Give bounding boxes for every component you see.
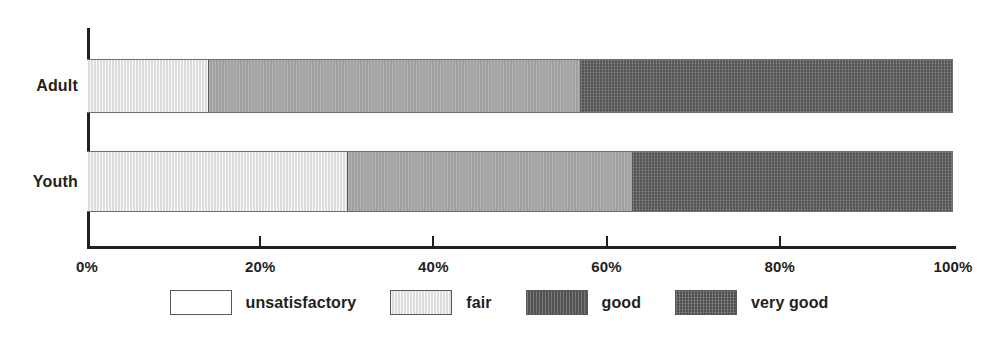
legend-item-very-good[interactable]: very good xyxy=(675,290,828,315)
legend-swatch-very-good xyxy=(675,290,737,315)
legend-label-fair: fair xyxy=(466,294,491,312)
bar-youth xyxy=(87,151,953,212)
legend-label-unsatisfactory: unsatisfactory xyxy=(246,294,357,312)
category-label-adult: Adult xyxy=(36,77,78,95)
bar-segment-good xyxy=(208,60,580,112)
x-axis-tick-label: 80% xyxy=(764,258,795,275)
x-axis-tick-label: 40% xyxy=(418,258,449,275)
bar-segment-very-good xyxy=(580,60,952,112)
legend-swatch-fair xyxy=(390,290,452,315)
legend-item-good[interactable]: good xyxy=(526,290,642,315)
x-axis-tick xyxy=(259,236,261,247)
stacked-bar-chart: 0%20%40%60%80%100% AdultYouth unsatisfac… xyxy=(0,0,998,337)
x-axis-tick-label: 60% xyxy=(591,258,622,275)
x-axis-line xyxy=(87,246,956,249)
legend-label-good: good xyxy=(602,294,642,312)
bar-segment-good xyxy=(347,152,632,211)
legend-label-very-good: very good xyxy=(751,294,828,312)
bar-segment-very-good xyxy=(632,152,952,211)
x-axis-tick-label: 20% xyxy=(245,258,276,275)
bar-segment-fair xyxy=(87,152,347,211)
category-label-youth: Youth xyxy=(33,173,78,191)
bar-segment-fair xyxy=(87,60,208,112)
legend-item-unsatisfactory[interactable]: unsatisfactory xyxy=(170,290,357,315)
x-axis-tick-label: 100% xyxy=(933,258,972,275)
chart-legend: unsatisfactoryfairgoodvery good xyxy=(0,290,998,315)
x-axis-tick-label: 0% xyxy=(76,258,98,275)
x-axis-tick xyxy=(606,236,608,247)
legend-swatch-unsatisfactory xyxy=(170,290,232,315)
x-axis-tick xyxy=(779,236,781,247)
bar-adult xyxy=(87,59,953,113)
legend-swatch-good xyxy=(526,290,588,315)
legend-item-fair[interactable]: fair xyxy=(390,290,491,315)
x-axis-tick xyxy=(432,236,434,247)
